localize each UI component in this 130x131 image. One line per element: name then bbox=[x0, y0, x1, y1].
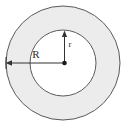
annulus-diagram-svg: R r bbox=[0, 0, 130, 131]
radius-outer-label: R bbox=[32, 48, 40, 60]
radius-inner-label: r bbox=[69, 39, 72, 49]
center-dot bbox=[62, 61, 67, 66]
annulus-figure: R r bbox=[0, 0, 130, 131]
